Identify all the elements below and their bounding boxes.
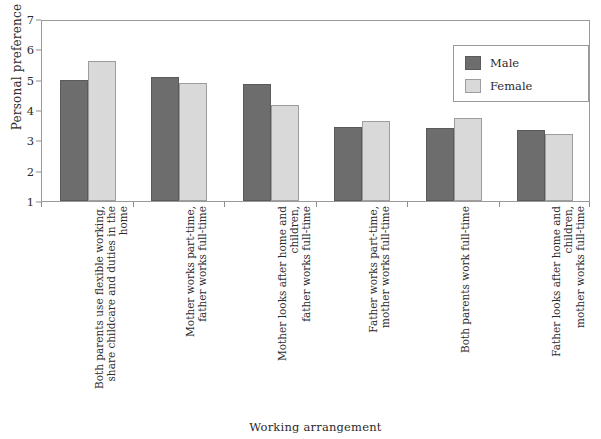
y-tick-label: 3 (27, 134, 34, 148)
bar-male-2 (243, 84, 271, 201)
x-category-label: Father looks after home and children, mo… (550, 206, 586, 406)
bar-group (151, 21, 207, 201)
y-tick-label: 1 (27, 195, 34, 209)
y-tick-label: 2 (27, 165, 34, 179)
x-category-label: Both parents work full-time (459, 206, 471, 406)
bar-male-5 (517, 130, 545, 201)
x-category-label: Mother works part-time, father works ful… (184, 206, 208, 406)
bar-female-0 (88, 61, 116, 201)
x-axis-labels: Both parents use flexible working, share… (41, 206, 590, 406)
legend-swatch-female-icon (465, 79, 481, 93)
bar-male-0 (60, 80, 88, 201)
legend-item-female: Female (465, 78, 532, 94)
bar-female-5 (545, 134, 573, 201)
bar-male-3 (334, 127, 362, 201)
legend-label-female: Female (490, 79, 532, 93)
y-axis-title: Personal preference (10, 0, 24, 142)
top-caption (0, 0, 601, 6)
bar-group (334, 21, 390, 201)
legend-item-male: Male (465, 55, 519, 71)
y-tick-label: 6 (27, 43, 34, 57)
legend: Male Female (453, 45, 589, 102)
y-tick-label: 4 (27, 104, 34, 118)
bar-female-1 (179, 83, 207, 201)
x-axis-title: Working arrangement (41, 420, 590, 434)
bar-female-4 (454, 118, 482, 201)
x-category-label: Father works part-time, mother works ful… (367, 206, 391, 406)
chart-figure: Personal preference 1234567 Male Female … (0, 0, 601, 439)
x-category-label: Both parents use flexible working, share… (93, 206, 129, 406)
bar-male-4 (426, 128, 454, 201)
y-axis: Personal preference 1234567 (0, 20, 41, 203)
bar-group (243, 21, 299, 201)
legend-label-male: Male (490, 56, 519, 70)
legend-swatch-male-icon (465, 56, 481, 70)
x-category-label: Mother looks after home and children, fa… (276, 206, 312, 406)
bar-female-3 (362, 121, 390, 201)
plot-area: Male Female (41, 20, 590, 202)
bar-female-2 (271, 105, 299, 201)
bar-group (60, 21, 116, 201)
y-tick-label: 7 (27, 13, 34, 27)
bar-male-1 (151, 77, 179, 201)
y-tick-label: 5 (27, 74, 34, 88)
